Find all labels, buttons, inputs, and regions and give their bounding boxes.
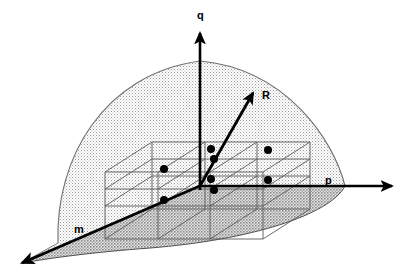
lattice-point: [207, 175, 215, 183]
diagram-canvas: q p m R: [0, 0, 400, 277]
lattice-point: [207, 145, 215, 153]
axis-label-p: p: [325, 174, 332, 186]
lattice-point: [160, 196, 168, 204]
lattice-point: [210, 155, 218, 163]
figure-container: q p m R: [0, 0, 400, 277]
axis-label-m: m: [74, 223, 84, 235]
lattice-point: [264, 176, 272, 184]
lattice-point: [160, 165, 168, 173]
axis-label-q: q: [197, 9, 204, 21]
vector-label-r: R: [262, 89, 270, 101]
lattice-point: [210, 186, 218, 194]
lattice-point: [264, 146, 272, 154]
